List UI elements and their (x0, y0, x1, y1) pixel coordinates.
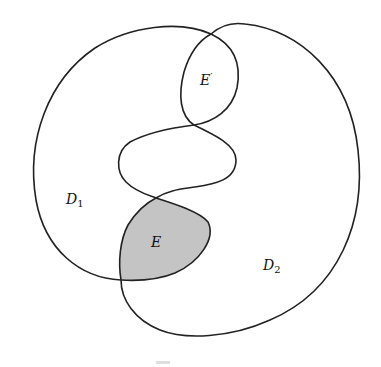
label-d2-main: D (263, 257, 274, 273)
label-d1-main: D (66, 191, 77, 207)
label-e-prime-main: E (200, 72, 210, 88)
region-e-shading (120, 198, 210, 280)
label-d2-subscript: 2 (274, 264, 280, 275)
label-e-prime-mark: ′ (210, 71, 212, 82)
label-e-prime: E′ (200, 72, 213, 87)
region-diagram: D1 D2 E E′ (0, 0, 381, 367)
label-d1: D1 (66, 192, 84, 209)
label-d1-subscript: 1 (77, 198, 83, 209)
diagram-canvas (0, 0, 381, 367)
label-e: E (151, 235, 161, 249)
label-e-main: E (151, 234, 161, 250)
label-d2: D2 (263, 258, 281, 275)
d2-boundary-curve (120, 23, 360, 335)
caption-mark (156, 361, 170, 364)
